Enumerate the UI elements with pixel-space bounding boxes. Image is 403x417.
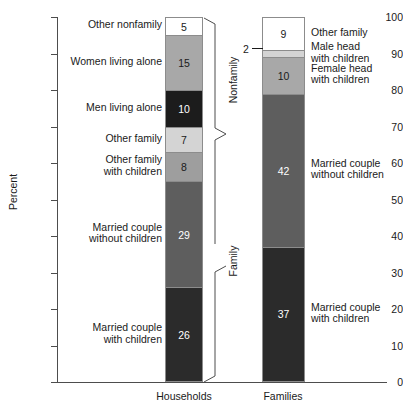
y-tick-20 — [51, 309, 57, 310]
y-tick-40 — [51, 236, 57, 237]
y-tick-10 — [51, 346, 57, 347]
segment-households-women-living-alone[interactable]: 15 — [165, 35, 203, 90]
segment-families-male-head-with-children[interactable] — [262, 50, 305, 57]
label-households-other-family: Other family — [105, 133, 162, 145]
callout-value-2: 2 — [243, 44, 249, 54]
y-tick-label-70: 70 — [359, 122, 403, 132]
y-tick-100 — [51, 17, 57, 18]
label-households-other-family-with-children: Other familywith children — [104, 154, 162, 177]
label-families-male-head-with-children: Male headwith children — [311, 41, 369, 64]
label-line: with children — [93, 334, 162, 346]
grouping-braces — [203, 10, 229, 390]
brace-label-family: Family — [227, 225, 239, 297]
y-axis-title: Percent — [7, 157, 19, 227]
y-tick-90 — [51, 54, 57, 55]
category-label-households: Households — [139, 390, 229, 402]
y-tick-60 — [51, 163, 57, 164]
label-line: Other family — [104, 154, 162, 166]
label-line: Male head — [311, 41, 369, 53]
y-tick-30 — [51, 273, 57, 274]
segment-value-families-married-couple-with-children: 37 — [278, 309, 290, 319]
segment-value-households-other-family-with-children: 8 — [181, 162, 187, 172]
segment-households-married-couple-without-children[interactable]: 29 — [165, 181, 203, 287]
y-tick-label-0: 0 — [359, 377, 403, 387]
segment-families-married-couple-with-children[interactable]: 37 — [262, 247, 305, 382]
segment-households-other-family[interactable]: 7 — [165, 127, 203, 153]
category-label-families: Families — [238, 390, 328, 402]
label-households-married-couple-with-children: Married couplewith children — [93, 322, 162, 345]
label-line: with children — [104, 166, 162, 178]
bar-families[interactable]: 9104237 — [262, 17, 305, 382]
stacked-bar-chart: Percent 1009080706050403020100 515107829… — [0, 0, 403, 417]
label-families-married-couple-without-children: Married couplewithout children — [311, 158, 384, 181]
segment-value-households-women-living-alone: 15 — [178, 58, 190, 68]
bar-households[interactable]: 51510782926 — [165, 17, 203, 382]
label-households-women-living-alone: Women living alone — [71, 56, 162, 68]
label-families-married-couple-with-children: Married couplewith children — [311, 302, 380, 325]
y-tick-70 — [51, 127, 57, 128]
label-line: Men living alone — [86, 102, 162, 114]
segment-value-families-female-head-with-children: 10 — [278, 71, 290, 81]
y-tick-label-10: 10 — [359, 341, 403, 351]
y-tick-label-50: 50 — [359, 195, 403, 205]
y-tick-label-80: 80 — [359, 85, 403, 95]
label-line: without children — [311, 169, 384, 181]
segment-value-households-men-living-alone: 10 — [178, 104, 190, 114]
segment-families-married-couple-without-children[interactable]: 42 — [262, 94, 305, 247]
segment-households-men-living-alone[interactable]: 10 — [165, 90, 203, 127]
label-line: Married couple — [93, 322, 162, 334]
y-tick-80 — [51, 90, 57, 91]
segment-value-households-married-couple-without-children: 29 — [178, 230, 190, 240]
label-households-married-couple-without-children: Married couplewithout children — [89, 222, 162, 245]
label-line: with children — [311, 74, 372, 86]
y-tick-label-100: 100 — [359, 12, 403, 22]
label-families-female-head-with-children: Female headwith children — [311, 63, 372, 86]
y-tick-50 — [51, 200, 57, 201]
segment-value-families-other-family: 9 — [281, 29, 287, 39]
label-line: Other family — [311, 27, 368, 39]
y-tick-label-30: 30 — [359, 268, 403, 278]
label-households-men-living-alone: Men living alone — [86, 102, 162, 114]
label-line: Other nonfamily — [88, 19, 162, 31]
segment-households-married-couple-with-children[interactable]: 26 — [165, 287, 203, 382]
y-tick-label-40: 40 — [359, 231, 403, 241]
label-households-other-nonfamily: Other nonfamily — [88, 19, 162, 31]
y-tick-0 — [51, 382, 57, 383]
segment-families-female-head-with-children[interactable]: 10 — [262, 57, 305, 94]
brace-label-nonfamily: Nonfamily — [227, 40, 239, 120]
segment-households-other-family-with-children[interactable]: 8 — [165, 152, 203, 181]
label-line: without children — [89, 233, 162, 245]
segment-value-families-married-couple-without-children: 42 — [278, 166, 290, 176]
segment-value-households-other-nonfamily: 5 — [181, 22, 187, 32]
segment-value-households-married-couple-with-children: 26 — [178, 330, 190, 340]
callout-leader-line — [252, 48, 263, 49]
segment-value-households-other-family: 7 — [181, 135, 187, 145]
y-axis-line — [57, 17, 58, 382]
segment-households-other-nonfamily[interactable]: 5 — [165, 17, 203, 35]
label-families-other-family: Other family — [311, 27, 368, 39]
segment-families-other-family[interactable]: 9 — [262, 17, 305, 50]
label-line: Women living alone — [71, 56, 162, 68]
label-line: with children — [311, 313, 380, 325]
label-line: Other family — [105, 133, 162, 145]
